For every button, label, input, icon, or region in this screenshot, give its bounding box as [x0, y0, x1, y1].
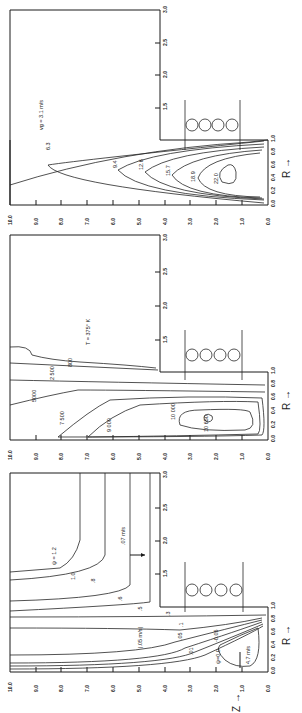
svg-text:22.0: 22.0: [213, 173, 219, 184]
svg-text:.07 m/s: .07 m/s: [120, 527, 126, 545]
svg-text:18.9: 18.9: [190, 171, 196, 182]
svg-text:7 500: 7 500: [59, 411, 65, 425]
svg-text:10 000: 10 000: [170, 403, 176, 420]
svg-text:0.8: 0.8: [270, 148, 276, 155]
svg-text:.5: .5: [137, 606, 143, 611]
svg-text:15.7: 15.7: [165, 165, 171, 176]
svg-text:1.5: 1.5: [162, 103, 168, 110]
svg-text:6.3: 6.3: [45, 142, 51, 150]
svg-text:.3: .3: [165, 611, 171, 616]
svg-text:0.0: 0.0: [265, 218, 271, 225]
svg-text:-0.05: -0.05: [213, 629, 219, 642]
panel-top-frame: [10, 10, 268, 205]
figure-canvas: 1.5 2.0 2.5 3.0 0.0 0.2 0.4 0.6 0.8 1.0 …: [0, 0, 302, 713]
svg-text:10.0: 10.0: [7, 215, 13, 225]
svg-text:9.0: 9.0: [33, 685, 39, 692]
r-axis-inner-top: 0.0 0.2 0.4 0.6 0.8 1.0 R →: [270, 135, 292, 207]
svg-text:.01: .01: [188, 647, 194, 655]
svg-text:3.0: 3.0: [162, 6, 168, 13]
svg-text:R →: R →: [281, 625, 292, 645]
svg-text:4.0: 4.0: [162, 685, 168, 692]
svg-text:2.5: 2.5: [162, 504, 168, 511]
svg-text:2.5: 2.5: [162, 39, 168, 46]
svg-text:R →: R →: [281, 158, 292, 178]
svg-text:1.0: 1.0: [270, 135, 276, 142]
svg-text:R →: R →: [281, 390, 292, 410]
contours-middle: T = 375° K 800 2 500 5000 7 500 9 000 10…: [10, 319, 265, 437]
svg-text:3.0: 3.0: [187, 453, 193, 460]
svg-text:8.0: 8.0: [58, 685, 64, 692]
z-axis-bottom: 10.0 9.0 8.0 7.0 6.0 5.0 4.0 3.0 2.0 1.0…: [7, 667, 271, 712]
svg-text:6.0: 6.0: [110, 685, 116, 692]
svg-text:10.0: 10.0: [7, 682, 13, 692]
svg-text:5000: 5000: [31, 390, 37, 402]
tube-bank-bottom: [185, 562, 243, 612]
svg-text:10 650: 10 650: [203, 415, 209, 432]
svg-text:5.0: 5.0: [136, 685, 142, 692]
panel-middle: 1.5 2.0 2.5 3.0 0.0 0.2 0.4 0.6 0.8 1.0 …: [7, 234, 292, 460]
svg-text:0.2: 0.2: [270, 421, 276, 428]
svg-text:2.0: 2.0: [213, 685, 219, 692]
svg-text:ψ = 1.2: ψ = 1.2: [51, 547, 57, 565]
svg-text:1.0: 1.0: [239, 453, 245, 460]
svg-text:3.0: 3.0: [187, 218, 193, 225]
svg-text:5.0: 5.0: [136, 453, 142, 460]
svg-text:2.0: 2.0: [162, 302, 168, 309]
svg-text:1.5: 1.5: [162, 570, 168, 577]
z-axis-middle: 10.0 9.0 8.0 7.0 6.0 5.0 4.0 3.0 2.0 1.0…: [7, 435, 271, 460]
svg-text:4.7 m/s: 4.7 m/s: [245, 646, 251, 664]
svg-text:0.8: 0.8: [270, 615, 276, 622]
svg-text:7.0: 7.0: [84, 453, 90, 460]
svg-text:1.5: 1.5: [162, 336, 168, 343]
svg-text:ψ=0.0: ψ=0.0: [215, 649, 221, 664]
svg-text:.1: .1: [178, 622, 184, 627]
svg-text:0.0: 0.0: [270, 435, 276, 442]
svg-text:0.4: 0.4: [270, 641, 276, 648]
svg-text:T = 375° K: T = 375° K: [85, 319, 91, 345]
svg-text:2.0: 2.0: [162, 71, 168, 78]
svg-text:7.0: 7.0: [84, 218, 90, 225]
svg-text:0.8: 0.8: [270, 380, 276, 387]
svg-text:0.6: 0.6: [270, 628, 276, 635]
svg-text:1.0: 1.0: [270, 602, 276, 609]
svg-text:9.0: 9.0: [33, 453, 39, 460]
svg-text:0.2: 0.2: [270, 654, 276, 661]
svg-text:1.0: 1.0: [239, 218, 245, 225]
svg-text:6.0: 6.0: [110, 453, 116, 460]
svg-text:800: 800: [67, 358, 73, 367]
svg-text:0.2: 0.2: [270, 187, 276, 194]
svg-text:2 500: 2 500: [49, 366, 55, 380]
svg-text:8.0: 8.0: [58, 218, 64, 225]
svg-text:.8: .8: [90, 578, 96, 583]
svg-text:0.0: 0.0: [265, 685, 271, 692]
svg-text:.05: .05: [177, 632, 183, 640]
svg-text:0.0: 0.0: [265, 453, 271, 460]
svg-text:9.4: 9.4: [112, 160, 118, 168]
svg-text:0.6: 0.6: [270, 393, 276, 400]
svg-text:3.0: 3.0: [187, 685, 193, 692]
svg-text:1.0: 1.0: [70, 572, 76, 580]
svg-text:3.0: 3.0: [162, 234, 168, 241]
svg-text:6.0: 6.0: [110, 218, 116, 225]
svg-text:2.0: 2.0: [213, 453, 219, 460]
r-axis-outer-middle: 1.5 2.0 2.5 3.0: [155, 234, 168, 343]
svg-text:0.0: 0.0: [270, 200, 276, 207]
svg-text:12.6: 12.6: [138, 159, 144, 170]
svg-text:10.0: 10.0: [7, 450, 13, 460]
r-axis-inner-middle: 0.0 0.2 0.4 0.6 0.8 1.0 R →: [270, 367, 292, 442]
svg-text:0.4: 0.4: [270, 174, 276, 181]
svg-text:.6: .6: [117, 596, 123, 601]
svg-text:1.0: 1.0: [270, 367, 276, 374]
svg-text:4.0: 4.0: [162, 218, 168, 225]
r-axis-outer-bottom: 1.5 2.0 2.5 3.0: [155, 471, 168, 577]
r-axis-inner-bottom: 0.0 0.2 0.4 0.6 0.8 1.0 R →: [270, 602, 292, 674]
svg-text:8.0: 8.0: [58, 453, 64, 460]
svg-text:0.4: 0.4: [270, 407, 276, 414]
panel-top: 1.5 2.0 2.5 3.0 0.0 0.2 0.4 0.6 0.8 1.0 …: [7, 6, 292, 225]
svg-text:0.0: 0.0: [270, 667, 276, 674]
svg-text:2.5: 2.5: [162, 268, 168, 275]
svg-text:7.0: 7.0: [84, 685, 90, 692]
z-axis-top: 10.0 9.0 8.0 7.0 6.0 5.0 4.0 3.0 2.0 1.0…: [7, 200, 271, 225]
svg-text:4.0: 4.0: [162, 453, 168, 460]
contours-top: 6.3 9.4 12.6 15.7 18.9 22.0 vg = 3.1 m/s: [10, 100, 268, 203]
